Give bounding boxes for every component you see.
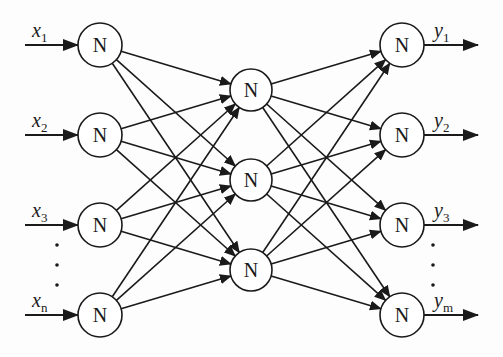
edge-input4-hidden2 — [116, 194, 235, 300]
neuron-label: N — [395, 34, 409, 56]
input-label-xn: xn — [31, 289, 48, 315]
neural-network-diagram: NNNNNNNNNNN x1x2x3xny1y2y3ym — [0, 0, 503, 357]
network-graph: NNNNNNNNNNN x1x2x3xny1y2y3ym — [0, 0, 503, 357]
input-neuron-3: N — [78, 203, 122, 247]
input-label-x3: x3 — [31, 199, 47, 225]
input-label-x1: x1 — [31, 19, 47, 45]
input-label-x2: x2 — [31, 109, 47, 135]
output-label-y1: y1 — [432, 19, 449, 45]
neuron-label: N — [93, 124, 107, 146]
edge-hidden3-output2 — [267, 150, 386, 256]
neuron-label: N — [395, 214, 409, 236]
output-neuron-2: N — [380, 113, 424, 157]
output-label-ym: ym — [432, 289, 453, 315]
neuron-label: N — [395, 124, 409, 146]
output-label-y2: y2 — [432, 109, 449, 135]
neuron-label: N — [244, 79, 258, 101]
output-neuron-4: N — [380, 293, 424, 337]
edge-hidden2-output1 — [267, 60, 386, 166]
hidden-neuron-2: N — [230, 159, 272, 201]
edge-hidden3-output1 — [263, 63, 390, 252]
hidden-neuron-3: N — [230, 249, 272, 291]
neurons: NNNNNNNNNNN — [78, 23, 424, 337]
output-ellipsis — [431, 243, 435, 287]
input-ellipsis — [55, 243, 59, 287]
output-neuron-1: N — [380, 23, 424, 67]
neuron-label: N — [93, 214, 107, 236]
neuron-label: N — [93, 34, 107, 56]
neuron-label: N — [244, 259, 258, 281]
neuron-label: N — [395, 304, 409, 326]
edge-input4-hidden1 — [112, 107, 239, 296]
output-neuron-3: N — [380, 203, 424, 247]
input-neuron-2: N — [78, 113, 122, 157]
input-neuron-1: N — [78, 23, 122, 67]
hidden-neuron-1: N — [230, 69, 272, 111]
neuron-label: N — [93, 304, 107, 326]
neuron-label: N — [244, 169, 258, 191]
edge-input3-hidden1 — [116, 104, 235, 210]
output-label-y3: y3 — [432, 199, 449, 225]
input-neuron-4: N — [78, 293, 122, 337]
